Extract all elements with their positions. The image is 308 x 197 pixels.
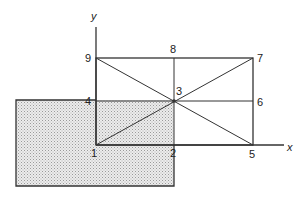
- point-label-2: 2: [170, 147, 176, 159]
- y-axis-label: y: [90, 10, 98, 22]
- point-label-3: 3: [176, 85, 182, 97]
- point-label-7: 7: [257, 52, 263, 64]
- x-axis-label: x: [286, 141, 293, 153]
- point-label-5: 5: [249, 148, 255, 160]
- center-point: [172, 99, 176, 103]
- point-label-6: 6: [257, 96, 263, 108]
- point-label-8: 8: [170, 43, 176, 55]
- point-label-9: 9: [85, 52, 91, 64]
- coordinate-diagram: y x 1 2 3 4 5 6 7 8 9: [0, 0, 308, 197]
- point-label-1: 1: [91, 147, 97, 159]
- point-label-4: 4: [85, 95, 91, 107]
- shaded-region: [16, 100, 174, 186]
